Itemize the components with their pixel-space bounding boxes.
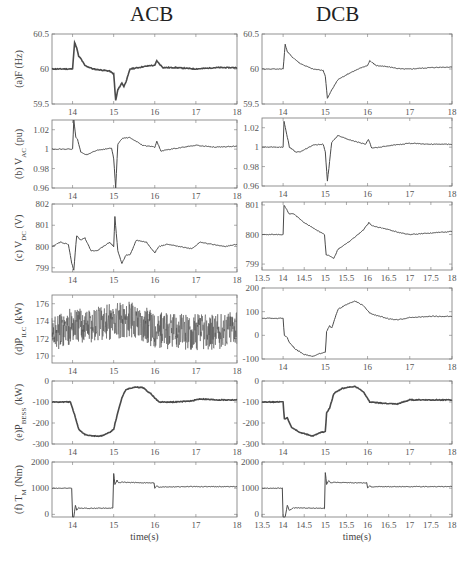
- x-tick-label: 17: [405, 273, 415, 283]
- x-tick-label: 14.5: [296, 273, 312, 283]
- x-tick-label: 18: [448, 107, 458, 117]
- x-tick-label: 16: [150, 447, 160, 457]
- x-tick-label: 15: [109, 366, 119, 376]
- y-tick-label: 800: [246, 230, 260, 240]
- x-tick-label: 15: [321, 362, 331, 372]
- plot-f_dcb: 13.51414.51515.51616.51717.518010002000t…: [241, 457, 457, 543]
- y-tick-label: -100: [243, 397, 260, 407]
- x-tick-label: 18: [233, 447, 243, 457]
- x-tick-label: 15: [321, 447, 331, 457]
- y-tick-label: 59.5: [33, 99, 49, 109]
- y-tick-label: 801: [246, 200, 260, 210]
- y-tick-label: 60.5: [33, 29, 49, 39]
- x-tick-label: 17: [405, 520, 415, 530]
- x-tick-label: 18: [233, 520, 243, 530]
- x-tick-label: 16.5: [381, 520, 397, 530]
- y-axis-label: (a)F (Hz): [13, 50, 25, 87]
- x-tick-label: 17: [191, 447, 201, 457]
- x-tick-label: 18: [233, 366, 243, 376]
- plot-f_acb: 1415161718010002000(f) TM (Nm)time(s): [13, 457, 242, 543]
- y-tick-label: 60: [250, 64, 260, 74]
- x-tick-label: 18: [448, 520, 458, 530]
- x-tick-label: 14: [68, 520, 78, 530]
- plot-c_dcb: 13.51414.51515.51616.51717.518799800801: [246, 200, 458, 283]
- x-tick-label: 15: [109, 107, 119, 117]
- x-tick-label: 18: [233, 275, 243, 285]
- y-tick-label: 1.02: [243, 123, 259, 133]
- x-tick-label: 16: [150, 275, 160, 285]
- y-tick-label: 60.5: [243, 29, 259, 39]
- x-tick-label: 16: [363, 447, 373, 457]
- x-tick-label: 16: [363, 273, 373, 283]
- x-tick-label: 14: [279, 189, 289, 199]
- x-tick-label: 13.5: [254, 273, 270, 283]
- x-tick-label: 15: [321, 520, 331, 530]
- y-tick-label: 2000: [241, 457, 260, 467]
- y-tick-label: 170: [36, 351, 50, 361]
- x-tick-label: 17: [191, 275, 201, 285]
- x-tick-label: 15: [321, 273, 331, 283]
- x-tick-label: 18: [448, 189, 458, 199]
- y-tick-label: 176: [36, 299, 50, 309]
- x-tick-label: 16.5: [381, 273, 397, 283]
- x-tick-label: 17: [191, 366, 201, 376]
- x-tick-label: 16: [150, 366, 160, 376]
- y-axis-label: (f) TM (Nm): [13, 465, 28, 514]
- y-tick-label: 0: [255, 376, 260, 386]
- y-tick-label: 200: [246, 283, 260, 293]
- y-tick-label: 1.02: [33, 125, 49, 135]
- y-tick-label: 0.98: [33, 164, 49, 174]
- x-tick-label: 15: [321, 107, 331, 117]
- x-tick-label: 14: [279, 273, 289, 283]
- y-tick-label: -300: [33, 439, 50, 449]
- x-tick-label: 14: [68, 191, 78, 201]
- x-tick-label: 16: [150, 191, 160, 201]
- x-tick-label: 17: [191, 191, 201, 201]
- x-tick-label: 18: [448, 447, 458, 457]
- plot-a_acb: 141516171859.56060.5(a)F (Hz): [13, 29, 242, 117]
- y-tick-label: 0: [45, 376, 50, 386]
- y-tick-label: 801: [36, 220, 50, 230]
- plot-d_dcb: 1415161718-1000100200: [243, 283, 458, 372]
- y-tick-label: 1: [45, 144, 50, 154]
- plot-b_acb: 14151617180.960.9811.02(b) VAC (pu): [13, 120, 242, 201]
- x-tick-label: 15.5: [339, 273, 355, 283]
- y-tick-label: -100: [243, 354, 260, 364]
- x-tick-label: 18: [233, 191, 243, 201]
- x-tick-label: 17: [405, 189, 415, 199]
- y-tick-label: 2000: [31, 457, 50, 467]
- x-tick-label: 15: [109, 447, 119, 457]
- y-tick-label: 0: [255, 509, 260, 519]
- x-tick-label: 15: [321, 189, 331, 199]
- x-tick-label: 17: [405, 447, 415, 457]
- x-tick-label: 17: [191, 107, 201, 117]
- x-tick-label: 15.5: [339, 520, 355, 530]
- x-tick-label: 14.5: [296, 520, 312, 530]
- y-tick-label: 802: [36, 199, 50, 209]
- y-tick-label: 0.98: [243, 162, 259, 172]
- x-tick-label: 14: [68, 275, 78, 285]
- x-tick-label: 14: [279, 107, 289, 117]
- y-tick-label: -200: [243, 418, 260, 428]
- x-tick-label: 17.5: [423, 520, 439, 530]
- y-tick-label: 0.96: [243, 181, 259, 191]
- y-tick-label: -100: [33, 397, 50, 407]
- y-tick-label: 0: [255, 330, 260, 340]
- x-tick-label: 18: [448, 362, 458, 372]
- x-tick-label: 18: [233, 107, 243, 117]
- x-tick-label: 14: [68, 447, 78, 457]
- x-tick-label: 17: [405, 107, 415, 117]
- x-tick-label: 16: [150, 107, 160, 117]
- x-tick-label: 14: [68, 366, 78, 376]
- plot-e_dcb: 1415161718-300-200-1000: [243, 376, 458, 457]
- x-tick-label: 14: [279, 447, 289, 457]
- x-tick-label: 15: [109, 275, 119, 285]
- y-tick-label: -300: [243, 439, 260, 449]
- x-tick-label: 17: [405, 362, 415, 372]
- chart-grid: 141516171859.56060.5(a)F (Hz)14151617185…: [0, 0, 467, 569]
- x-tick-label: 17.5: [423, 273, 439, 283]
- x-tick-label: 18: [448, 273, 458, 283]
- y-tick-label: 100: [246, 307, 260, 317]
- y-axis-label: (e)PBESS (kW): [13, 384, 28, 441]
- plot-c_acb: 1415161718799800801802(c) VDC (V): [13, 199, 242, 285]
